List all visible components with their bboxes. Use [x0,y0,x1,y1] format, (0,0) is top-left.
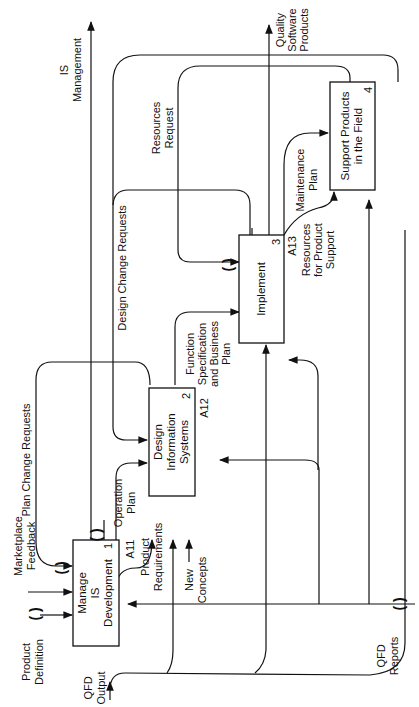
svg-text:IS: IS [89,587,101,598]
svg-text:for Product: for Product [312,223,324,277]
label-design-change-requests: Design Change Requests [116,205,128,331]
label-qfd-output: QFD Output [82,671,107,704]
box-a12-number: 2 [180,393,192,399]
svg-text:Concepts: Concepts [196,556,208,603]
rail-to-box3-right [289,360,318,470]
design-change-loop [113,190,250,235]
svg-text:Output: Output [95,671,107,704]
svg-text:( ): ( ) [27,607,43,620]
svg-text:Systems: Systems [178,420,190,464]
rail-to-box3-mechanism [255,345,266,673]
svg-text:Plan Change Requests: Plan Change Requests [20,403,32,517]
tunnel-resources-request: ( ) [220,258,236,271]
svg-text:Reports: Reports [388,636,400,675]
svg-text:Information: Information [165,413,177,471]
svg-text:IS: IS [58,65,70,75]
svg-text:Plan: Plan [220,343,232,365]
svg-text:Design: Design [152,424,164,460]
label-product-requirements: Product Requirements [139,522,164,591]
svg-text:Plan: Plan [307,169,319,191]
svg-text:and Business: and Business [208,320,220,387]
label-product-definition: Product Definition [20,639,45,685]
label-plan-change-requests: Plan Change Requests [20,403,32,517]
svg-text:Maintenance: Maintenance [294,149,306,212]
label-new-concepts: New Concepts [183,556,208,603]
svg-text:Definition: Definition [33,639,45,685]
svg-text:( ): ( ) [391,597,407,610]
tunnel-plan-change-requests: ( ) [53,561,69,574]
idef0-diagram: Manage IS Development 1 Design Informati… [0,0,419,707]
node-ref-a11: A11 [124,540,136,559]
svg-text:Software: Software [286,8,298,51]
box-a14-number: 4 [362,87,374,93]
svg-text:Product: Product [20,643,32,681]
svg-text:( ): ( ) [53,561,69,574]
svg-text:Plan: Plan [125,492,137,514]
svg-text:A13: A13 [286,236,298,256]
svg-text:Support Products: Support Products [339,91,351,180]
svg-text:Quality: Quality [274,12,286,47]
maintenance-plan-arrow [284,133,328,235]
svg-text:A11: A11 [124,540,136,559]
svg-text:Marketplace: Marketplace [12,516,24,576]
node-ref-a12: A12 [198,398,210,418]
svg-text:Specification: Specification [196,323,208,385]
svg-text:QFD: QFD [82,676,94,699]
svg-text:Operation: Operation [112,479,124,527]
svg-text:Resources: Resources [150,101,162,154]
svg-text:Products: Products [298,8,310,52]
svg-text:Requirements: Requirements [152,522,164,591]
svg-text:Manage: Manage [76,572,88,614]
tunnel-qfd-reports: ( ) [391,597,407,610]
svg-text:Development: Development [102,558,114,627]
label-marketplace-feedback: Marketplace Feedback [12,516,37,576]
tunnel-is-management: ( ) [88,528,104,541]
rail-to-box2-right [220,460,319,604]
box-a13-number: 3 [270,239,282,245]
svg-text:4: 4 [362,87,374,93]
svg-text:New: New [183,569,195,591]
svg-text:A12: A12 [198,398,210,418]
svg-text:Management: Management [71,38,83,102]
label-maintenance-plan: Maintenance Plan [294,149,319,212]
diagram-svg: Manage IS Development 1 Design Informati… [0,0,419,707]
svg-text:( ): ( ) [88,528,104,541]
svg-text:1: 1 [102,543,114,549]
svg-text:in the Field: in the Field [352,108,364,164]
label-operation-plan: Operation Plan [112,479,137,527]
box-a11-number: 1 [102,543,114,549]
rail-to-box2-mechanism [167,540,173,673]
label-quality-software-products: Quality Software Products [274,8,310,52]
label-resources-product-support: Resources for Product Support [300,223,336,277]
svg-text:Implement: Implement [255,261,267,315]
label-resources-request: Resources Request [150,101,175,154]
svg-text:QFD: QFD [375,644,387,667]
svg-text:( ): ( ) [220,258,236,271]
svg-text:Feedback: Feedback [25,521,37,570]
label-qfd-reports: QFD Reports [375,636,400,675]
svg-text:2: 2 [180,393,192,399]
tunnel-product-definition: ( ) [27,607,43,620]
svg-text:Product: Product [139,538,151,576]
svg-text:Function: Function [184,333,196,375]
node-ref-a13: A13 [286,236,298,256]
svg-text:Support: Support [324,231,336,270]
label-is-management: IS Management [58,38,83,102]
svg-text:3: 3 [270,239,282,245]
label-function-specification: Function Specification and Business Plan [184,320,232,387]
svg-text:Request: Request [163,108,175,149]
box-a13-label: Implement [255,261,267,315]
svg-text:Resources: Resources [300,223,312,276]
svg-text:Design Change Requests: Design Change Requests [116,205,128,331]
